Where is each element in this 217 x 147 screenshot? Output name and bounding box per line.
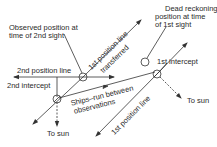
dead-reckoning-position-marker (141, 58, 149, 66)
first-intercept-label: 1st intercept (157, 58, 198, 66)
observed-position-label-2: time of 2nd sight (9, 32, 64, 40)
running-fix-diagram: Observed position at time of 2nd sight D… (0, 0, 217, 147)
to-sun-bottom-label: To sun (47, 130, 69, 138)
to-sun-right-line (160, 77, 181, 98)
second-intercept-label: 2nd intercept (7, 82, 50, 90)
dead-reckoning-label-3: of 1st sight (155, 21, 191, 29)
second-position-line-label: 2nd position line (17, 67, 71, 75)
to-sun-right-label: To sun (187, 97, 209, 105)
